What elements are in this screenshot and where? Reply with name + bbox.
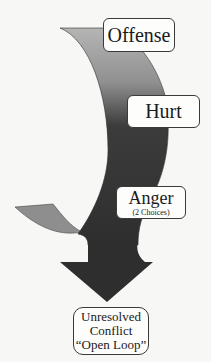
hurt-box: Hurt [127, 95, 200, 128]
tail-segment [15, 204, 82, 233]
anger-box: Anger (2 Choices) [116, 186, 186, 219]
hurt-label: Hurt [128, 96, 199, 127]
anger-sublabel: (2 Choices) [117, 208, 185, 217]
arrow-head [60, 240, 153, 302]
outcome-line-1: Unresolved [74, 310, 148, 324]
offense-label: Offense [104, 19, 174, 51]
outcome-line-2: Conflict [74, 324, 148, 338]
outcome-line-3: “Open Loop” [74, 338, 148, 352]
anger-label: Anger [117, 189, 185, 208]
outcome-box: Unresolved Conflict “Open Loop” [73, 307, 149, 355]
offense-box: Offense [103, 18, 175, 52]
